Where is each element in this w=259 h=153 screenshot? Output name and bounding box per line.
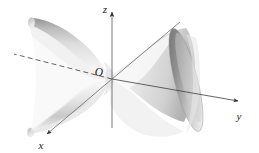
axis-label-z: z — [102, 3, 108, 15]
axis-label-y: y — [236, 110, 242, 122]
axis-label-x: x — [38, 139, 44, 151]
figure-canvas: z y x O — [0, 0, 259, 153]
hyperboloid-figure: z y x O — [0, 0, 259, 153]
origin-label: O — [95, 66, 104, 78]
